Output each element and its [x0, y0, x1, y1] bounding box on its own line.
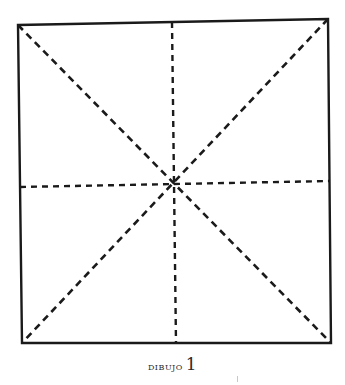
- caption-number: 1: [186, 354, 197, 374]
- figure-caption: DIBUJO1: [0, 354, 345, 374]
- caption-word: DIBUJO: [148, 359, 183, 373]
- page-mark: [237, 376, 238, 382]
- folding-diagram: [0, 0, 345, 385]
